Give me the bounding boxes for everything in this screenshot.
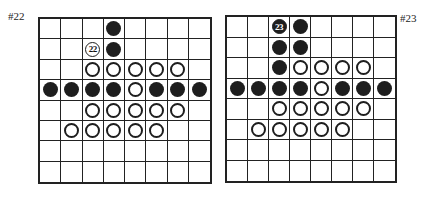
board-cell[interactable]: [311, 38, 332, 59]
board-cell[interactable]: [40, 101, 61, 121]
board-cell[interactable]: [61, 19, 82, 39]
board-cell[interactable]: [83, 101, 104, 121]
board-cell[interactable]: [83, 162, 104, 182]
board-cell[interactable]: [227, 38, 248, 59]
board-cell[interactable]: [227, 120, 248, 141]
board-cell[interactable]: [311, 140, 332, 161]
board-cell[interactable]: [40, 19, 61, 39]
board-cell[interactable]: [40, 80, 61, 100]
board-cell[interactable]: [248, 161, 269, 182]
board-cell[interactable]: [374, 79, 395, 100]
board-cell[interactable]: [146, 39, 167, 59]
board-cell[interactable]: [248, 17, 269, 38]
board-cell[interactable]: [104, 121, 125, 141]
board-cell[interactable]: [269, 161, 290, 182]
board-cell[interactable]: [374, 58, 395, 79]
board-cell[interactable]: [227, 58, 248, 79]
board-cell[interactable]: [61, 60, 82, 80]
board-cell[interactable]: [61, 162, 82, 182]
board-cell[interactable]: [374, 17, 395, 38]
board-cell[interactable]: [83, 80, 104, 100]
board-cell[interactable]: [168, 39, 189, 59]
board-cell[interactable]: [104, 19, 125, 39]
board-cell[interactable]: [311, 161, 332, 182]
board-cell[interactable]: [168, 80, 189, 100]
board-cell[interactable]: [104, 101, 125, 121]
board-cell[interactable]: [168, 101, 189, 121]
board-cell[interactable]: [269, 38, 290, 59]
board-cell[interactable]: [269, 79, 290, 100]
board-cell[interactable]: [125, 121, 146, 141]
board-cell[interactable]: [83, 141, 104, 161]
board-cell[interactable]: [146, 101, 167, 121]
board-cell[interactable]: [83, 121, 104, 141]
board-cell[interactable]: [374, 140, 395, 161]
board-cell[interactable]: [146, 141, 167, 161]
board-cell[interactable]: [104, 80, 125, 100]
board-cell[interactable]: [353, 58, 374, 79]
board-cell[interactable]: [269, 140, 290, 161]
board-cell[interactable]: [125, 101, 146, 121]
board-cell[interactable]: [227, 161, 248, 182]
board-cell[interactable]: [168, 19, 189, 39]
board-cell[interactable]: [290, 58, 311, 79]
board-cell[interactable]: [353, 79, 374, 100]
board-cell[interactable]: [125, 80, 146, 100]
board-cell[interactable]: [290, 38, 311, 59]
board-cell[interactable]: [332, 17, 353, 38]
board-cell[interactable]: [146, 121, 167, 141]
board-cell[interactable]: [125, 39, 146, 59]
board-cell[interactable]: [353, 38, 374, 59]
board-cell[interactable]: [168, 60, 189, 80]
board-cell[interactable]: [125, 162, 146, 182]
board-cell[interactable]: [248, 79, 269, 100]
board-cell[interactable]: [374, 99, 395, 120]
board-cell[interactable]: [332, 140, 353, 161]
board-cell[interactable]: [311, 99, 332, 120]
board-cell[interactable]: [332, 99, 353, 120]
board-cell[interactable]: [353, 140, 374, 161]
board-cell[interactable]: [290, 17, 311, 38]
board-cell[interactable]: [189, 162, 210, 182]
board-cell[interactable]: [189, 80, 210, 100]
board-cell[interactable]: [290, 99, 311, 120]
board-cell[interactable]: [311, 79, 332, 100]
board-cell[interactable]: [290, 79, 311, 100]
board-cell[interactable]: [61, 101, 82, 121]
board-cell[interactable]: [189, 60, 210, 80]
board-cell[interactable]: [189, 39, 210, 59]
board-cell[interactable]: [353, 120, 374, 141]
board-cell[interactable]: [353, 99, 374, 120]
board-cell[interactable]: [374, 38, 395, 59]
board-cell[interactable]: [311, 120, 332, 141]
board-cell[interactable]: [332, 79, 353, 100]
board-cell[interactable]: [189, 141, 210, 161]
board-cell[interactable]: [311, 17, 332, 38]
board-cell[interactable]: [248, 38, 269, 59]
board-cell[interactable]: 23: [269, 17, 290, 38]
board-cell[interactable]: [248, 58, 269, 79]
board-cell[interactable]: 22: [83, 39, 104, 59]
board-cell[interactable]: [227, 79, 248, 100]
board-cell[interactable]: [248, 140, 269, 161]
board-cell[interactable]: [104, 39, 125, 59]
board-cell[interactable]: [61, 80, 82, 100]
board-cell[interactable]: [227, 17, 248, 38]
board-cell[interactable]: [104, 60, 125, 80]
board-cell[interactable]: [125, 19, 146, 39]
board-cell[interactable]: [40, 121, 61, 141]
board-cell[interactable]: [269, 99, 290, 120]
board-cell[interactable]: [83, 19, 104, 39]
board-cell[interactable]: [61, 121, 82, 141]
board-cell[interactable]: [125, 60, 146, 80]
board-cell[interactable]: [332, 58, 353, 79]
board-cell[interactable]: [61, 141, 82, 161]
board-cell[interactable]: [189, 121, 210, 141]
board-cell[interactable]: [168, 141, 189, 161]
board-cell[interactable]: [125, 141, 146, 161]
board-cell[interactable]: [290, 161, 311, 182]
board-cell[interactable]: [332, 120, 353, 141]
board-cell[interactable]: [40, 141, 61, 161]
board-cell[interactable]: [168, 162, 189, 182]
board-cell[interactable]: [189, 19, 210, 39]
